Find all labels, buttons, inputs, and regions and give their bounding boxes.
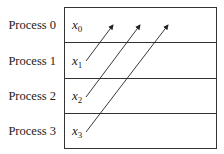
process-label-1: Process 1: [0, 54, 56, 68]
process-label-2: Process 2: [0, 89, 56, 103]
process-label-3: Process 3: [0, 124, 56, 138]
var-x3: x3: [72, 124, 82, 142]
var-x1: x1: [72, 54, 82, 72]
arrow-x2: [86, 25, 140, 97]
var-x0: x0: [72, 18, 82, 36]
var-x2: x2: [72, 89, 82, 107]
process-label-0: Process 0: [0, 18, 56, 32]
